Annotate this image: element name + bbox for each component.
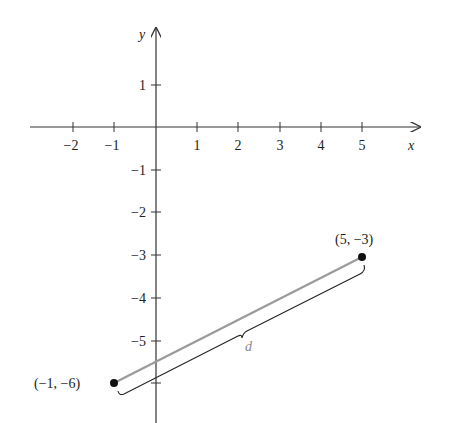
y-tick-label: 1: [139, 78, 146, 93]
distance-label: d: [245, 339, 253, 354]
y-tick-label: −2: [131, 205, 146, 220]
x-axis-label: x: [407, 138, 415, 153]
point-label: (5, −3): [335, 232, 374, 248]
distance-brace: [118, 265, 365, 395]
y-tick-label: −4: [131, 291, 146, 306]
y-tick-label: −3: [131, 248, 146, 263]
y-tick-labels: 1 −1 −2 −3 −4 −5: [131, 78, 146, 349]
x-tick-label: 4: [318, 138, 325, 153]
point-label: (−1, −6): [34, 376, 80, 392]
y-axis-label: y: [137, 27, 146, 42]
distance-segment: [114, 257, 362, 383]
x-tick-label: 1: [194, 138, 201, 153]
x-tick-label: −2: [64, 138, 79, 153]
x-tick-label: 2: [235, 138, 242, 153]
coordinate-plane: x y −2 −1 1 2 3 4 5 1 −1 −2 −3 −4 −5: [0, 0, 452, 423]
x-tick-labels: −2 −1 1 2 3 4 5: [64, 138, 366, 153]
point-marker: [358, 253, 366, 261]
x-tick-label: 5: [359, 138, 366, 153]
x-tick-label: −1: [105, 138, 120, 153]
y-tick-label: −5: [131, 334, 146, 349]
x-tick-label: 3: [277, 138, 284, 153]
y-tick-label: −1: [131, 163, 146, 178]
point-marker: [110, 379, 118, 387]
